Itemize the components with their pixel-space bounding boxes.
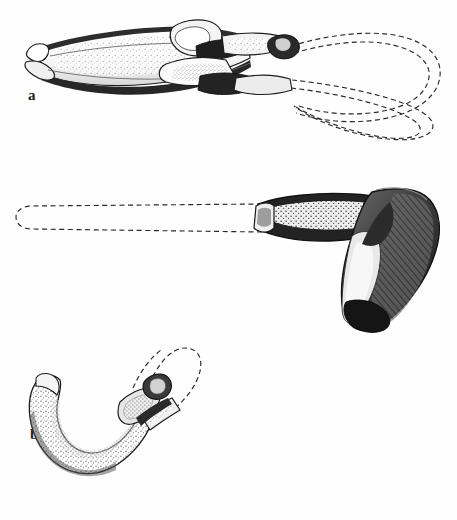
figure-root: a [0, 0, 457, 520]
panel-c-artifact [29, 374, 180, 477]
panel-b: b [0, 170, 457, 350]
panel-a-artifact [25, 20, 299, 95]
panel-a: a [0, 0, 457, 150]
panel-a-handle-outline [291, 33, 440, 121]
panel-b-drawing [0, 170, 457, 350]
panel-b-artifact [254, 188, 439, 333]
panel-c-drawing [0, 340, 300, 520]
panel-b-handle-outline [16, 204, 262, 232]
panel-a-drawing [0, 0, 457, 150]
panel-c: c [0, 340, 300, 520]
panel-label-a: a [28, 88, 36, 103]
